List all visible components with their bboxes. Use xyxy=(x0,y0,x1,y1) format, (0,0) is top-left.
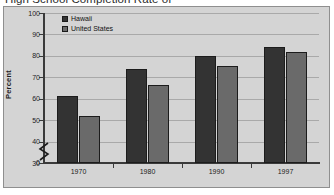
y-axis-tick-label: 60 xyxy=(18,95,40,102)
y-axis-tick-label: 70 xyxy=(18,74,40,81)
x-axis-tick-label: 1970 xyxy=(59,168,99,175)
bar-hawaii-1970 xyxy=(57,96,78,164)
bar-hawaii-1990 xyxy=(195,56,216,163)
y-axis-tick xyxy=(39,77,43,78)
y-axis-tick-label: 50 xyxy=(18,117,40,124)
x-axis-tick-labels: 1970198019901997 xyxy=(44,168,320,180)
bar-hawaii-1997 xyxy=(264,47,285,163)
y-axis-tick-zero xyxy=(39,163,43,164)
bar-hawaii-1980 xyxy=(126,69,147,163)
x-axis-tick xyxy=(182,164,183,168)
x-axis-tick xyxy=(251,164,252,168)
y-axis-tick-label: 90 xyxy=(18,31,40,38)
y-axis-tick xyxy=(39,56,43,57)
bar-series-group xyxy=(44,13,320,163)
bar-united-states-1990 xyxy=(217,66,238,164)
y-axis-tick xyxy=(39,13,43,14)
chart-page: High School Completion Rate of 304050607… xyxy=(0,0,334,195)
y-axis-tick-label: 100 xyxy=(18,10,40,17)
bar-united-states-1997 xyxy=(286,52,307,163)
x-axis-tick-label: 1990 xyxy=(197,168,237,175)
y-axis-tick xyxy=(39,99,43,100)
y-axis-tick-label: 80 xyxy=(18,52,40,59)
x-axis-tick-label: 1980 xyxy=(128,168,168,175)
x-axis-tick-label: 1997 xyxy=(266,168,306,175)
y-axis-tick xyxy=(39,34,43,35)
y-axis-tick xyxy=(39,120,43,121)
x-axis-tick xyxy=(113,164,114,168)
y-axis-tick-labels: 304050607080901000 xyxy=(10,0,40,195)
y-axis-tick xyxy=(39,142,43,143)
bar-united-states-1980 xyxy=(148,85,169,163)
bar-united-states-1970 xyxy=(79,116,100,163)
y-axis-title: Percent xyxy=(4,63,13,107)
